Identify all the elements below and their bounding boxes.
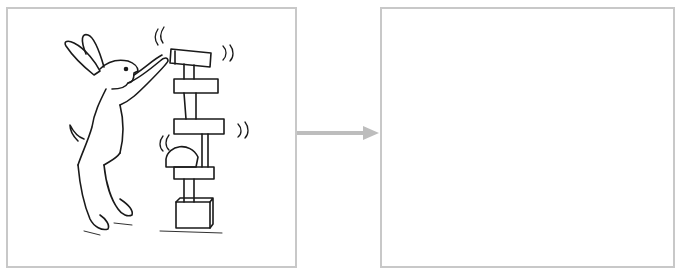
block-tower-drawing — [160, 49, 224, 233]
output-image-panel — [380, 7, 675, 268]
transform-arrow — [297, 125, 381, 141]
arrow-right-icon — [297, 125, 381, 141]
rabbit-drawing — [65, 35, 168, 235]
rabbit-block-tower-illustration — [8, 9, 295, 266]
wobble-marks — [155, 27, 248, 151]
input-image-panel — [6, 7, 297, 268]
